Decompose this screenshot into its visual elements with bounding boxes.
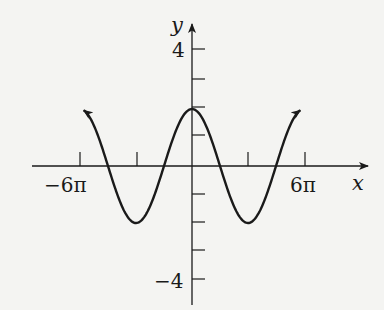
- y-ticks: [192, 49, 205, 279]
- y-axis-label: y: [170, 13, 184, 37]
- x-axis-label: x: [352, 171, 364, 195]
- chart: y x 4 −4 −6π 6π: [0, 0, 384, 310]
- y-tick-label-4: 4: [172, 38, 185, 62]
- x-tick-label-6pi: 6π: [290, 173, 316, 197]
- y-tick-label-neg4: −4: [154, 269, 183, 293]
- x-tick-label-neg6pi: −6π: [44, 173, 87, 197]
